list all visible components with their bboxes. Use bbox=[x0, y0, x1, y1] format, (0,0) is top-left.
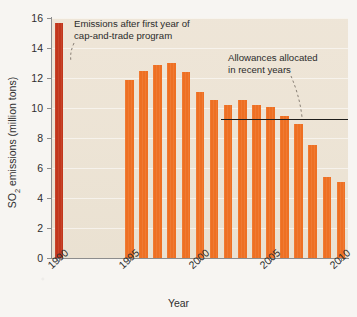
chart-figure: 0246810121416 19901995200020052010 SO2 e… bbox=[0, 0, 357, 317]
leader-line-cap-and-trade bbox=[71, 43, 74, 62]
annotation-leader-lines bbox=[0, 0, 357, 317]
leader-line-allowances bbox=[291, 76, 302, 117]
